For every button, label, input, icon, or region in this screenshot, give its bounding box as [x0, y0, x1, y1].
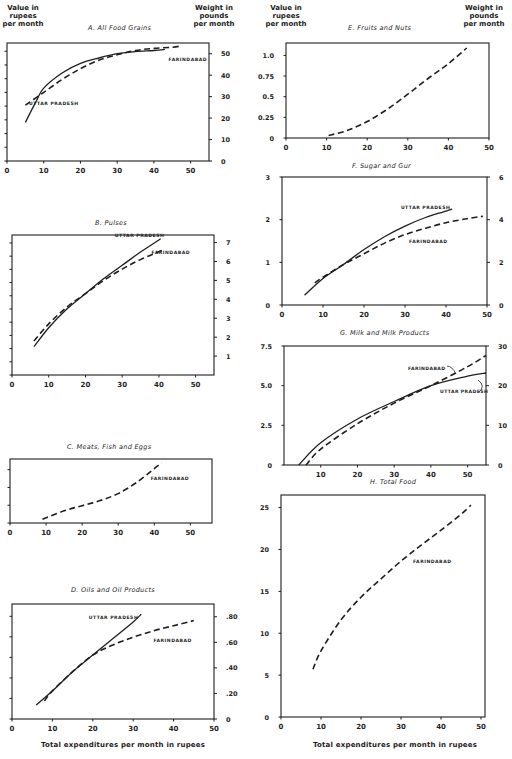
x-tick-label: 0 — [279, 723, 284, 731]
farindabad-curve — [313, 505, 471, 669]
uttar-pradesh-curve — [299, 373, 486, 465]
y-tick-label: 0.5 — [262, 93, 274, 101]
x-tick-label: 10 — [316, 723, 326, 731]
farindabad-curve — [43, 463, 162, 519]
y2-tick-label: 10 — [221, 136, 231, 144]
y2-tick-label: 1 — [226, 353, 231, 361]
y2-tick-label: 30 — [498, 343, 508, 351]
x-tick-label: 20 — [77, 529, 87, 537]
x-tick-label: 50 — [482, 311, 492, 319]
x-tick-label: 50 — [185, 529, 195, 537]
uttar-pradesh-label: UTTAR PRADESH — [29, 101, 79, 106]
x-tick-label: 10 — [322, 144, 332, 152]
plot-frame — [282, 177, 487, 305]
y-tick-label: 5.0 — [260, 382, 272, 390]
panel-g: 102030405002.55.07.50102030FARINDABADUTT… — [260, 343, 507, 480]
y2-tick-label: .80 — [226, 613, 238, 621]
uttar-pradesh-curve — [34, 239, 161, 347]
x-tick-label: 20 — [76, 167, 86, 175]
y2-tick-label: 20 — [221, 115, 231, 123]
uttar-pradesh-curve — [305, 209, 453, 295]
y-tick-label: 0 — [264, 714, 269, 722]
y-tick-label: 20 — [260, 546, 270, 554]
right-axis-header-right-column: Weight in pounds per month — [454, 4, 512, 28]
x-tick-label: 40 — [149, 167, 159, 175]
farindabad-curve — [315, 216, 483, 282]
x-tick-label: 20 — [353, 471, 363, 479]
left-axis-header: Value in rupees per month — [0, 4, 54, 28]
x-tick-label: 20 — [359, 311, 369, 319]
x-tick-label: 40 — [426, 471, 436, 479]
uttar-pradesh-curve — [25, 49, 165, 122]
farindabad-label: FARINDABAD — [409, 239, 448, 244]
farindabad-label: FARINDABAD — [413, 559, 452, 564]
x-tick-label: 50 — [463, 471, 473, 479]
farindabad-label: FARINDABAD — [169, 57, 208, 62]
right-axis-header-line: pounds — [454, 12, 512, 20]
panel-d: 010203040500.20.40.60.80UTTAR PRADESHFAR… — [10, 604, 238, 733]
y2-tick-label: 0 — [499, 302, 504, 310]
x-tick-label: 10 — [48, 725, 58, 733]
y2-tick-label: 4 — [226, 296, 231, 304]
farindabad-label: FARINDABAD — [151, 476, 190, 481]
panel-f-title: F. Sugar and Gur — [352, 162, 411, 170]
y2-tick-label: 3 — [226, 315, 231, 323]
y2-tick-label: 6 — [499, 174, 504, 182]
x-tick-label: 40 — [154, 381, 164, 389]
right-axis-header: Weight in pounds per month — [184, 4, 244, 28]
panel-b-title: B. Pulses — [95, 219, 127, 227]
farindabad-label: FARINDABAD — [153, 638, 192, 643]
left-axis-header-line: Value in — [256, 4, 316, 12]
x-tick-label: 40 — [149, 529, 159, 537]
x-tick-label: 50 — [191, 381, 201, 389]
right-axis-header-line: Weight in — [184, 4, 244, 12]
y2-tick-label: 5 — [226, 277, 231, 285]
left-axis-header-line: per month — [0, 20, 54, 28]
right-axis-header-line: per month — [184, 20, 244, 28]
left-axis-header-line: rupees — [0, 12, 54, 20]
x-tick-label: 30 — [112, 167, 122, 175]
x-tick-label: 20 — [362, 144, 372, 152]
panel-a-title: A. All Food Grains — [88, 24, 151, 32]
x-tick-label: 0 — [10, 381, 15, 389]
x-tick-label: 40 — [441, 311, 451, 319]
plot-frame — [12, 235, 214, 375]
x-tick-label: 10 — [41, 529, 51, 537]
right-axis-header-line: Weight in — [454, 4, 512, 12]
y2-tick-label: 4 — [499, 216, 504, 224]
x-tick-label: 0 — [280, 311, 285, 319]
y-tick-label: 10 — [260, 630, 270, 638]
uttar-pradesh-label: UTTAR PRADESH — [115, 233, 165, 238]
farindabad-label: FARINDABAD — [152, 250, 191, 255]
y-tick-label: 2 — [265, 216, 270, 224]
x-tick-label: 20 — [356, 723, 366, 731]
x-tick-label: 10 — [39, 167, 49, 175]
right-axis-header-line: per month — [454, 20, 512, 28]
y2-tick-label: 2 — [226, 334, 231, 342]
plot-frame — [286, 43, 489, 138]
y-tick-label: 25 — [260, 504, 270, 512]
y-tick-label: 0 — [269, 135, 274, 143]
farindabad-curve — [34, 250, 163, 341]
x-tick-label: 40 — [444, 144, 454, 152]
farindabad-label: FARINDABAD — [408, 366, 446, 371]
left-axis-header-right-column: Value in rupees per month — [256, 4, 316, 28]
x-tick-label: 50 — [476, 723, 486, 731]
panel-e: 0102030405000.250.50.751.0 — [258, 43, 494, 152]
panel-c-title: C. Meats, Fish and Eggs — [67, 443, 151, 451]
y2-tick-label: 40 — [221, 72, 231, 80]
left-axis-header-line: Value in — [0, 4, 54, 12]
y2-tick-label: .20 — [226, 690, 238, 698]
uttar-pradesh-label: UTTAR PRADESH — [89, 615, 139, 620]
panel-h: 010203040500510152025FARINDABAD — [260, 495, 486, 731]
plot-frame — [12, 604, 214, 719]
y2-tick-label: 10 — [498, 422, 508, 430]
y-tick-label: 0.75 — [258, 73, 275, 81]
x-tick-label: 0 — [284, 144, 289, 152]
plot-frame — [281, 495, 485, 717]
y2-tick-label: 20 — [498, 382, 508, 390]
farindabad-curve — [44, 621, 194, 702]
uttar-pradesh-label: UTTAR PRADESH — [401, 205, 451, 210]
y2-tick-label: 0 — [226, 716, 231, 724]
farindabad-curve — [329, 48, 467, 136]
